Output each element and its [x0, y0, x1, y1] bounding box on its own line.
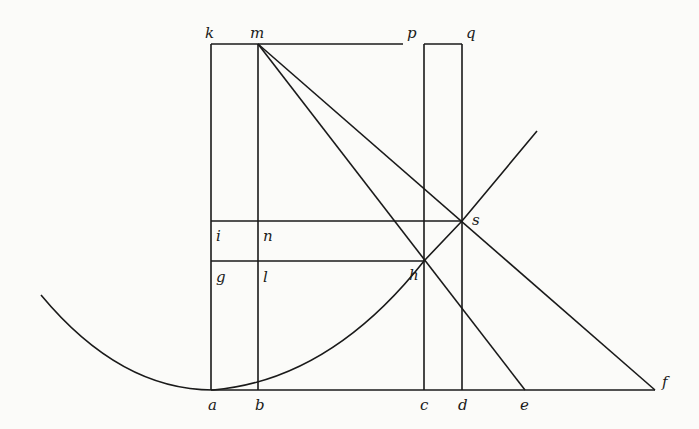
- label-b: b: [255, 396, 265, 414]
- label-e: e: [520, 396, 529, 414]
- label-q: q: [466, 24, 476, 42]
- label-n: n: [263, 227, 273, 245]
- label-p: p: [407, 24, 417, 42]
- label-c: c: [420, 396, 429, 414]
- label-l: l: [263, 268, 268, 286]
- label-g: g: [216, 268, 226, 286]
- label-a: a: [208, 396, 217, 414]
- label-d: d: [458, 396, 468, 414]
- label-s: s: [472, 211, 480, 229]
- label-h: h: [409, 266, 419, 284]
- line-m-e: [258, 44, 525, 390]
- line-m-f: [258, 44, 655, 390]
- diagram: k m p q i n s g l h a b c d e f: [0, 0, 699, 429]
- label-i: i: [216, 227, 221, 245]
- label-k: k: [205, 24, 214, 42]
- label-m: m: [250, 24, 264, 42]
- label-f: f: [661, 373, 670, 391]
